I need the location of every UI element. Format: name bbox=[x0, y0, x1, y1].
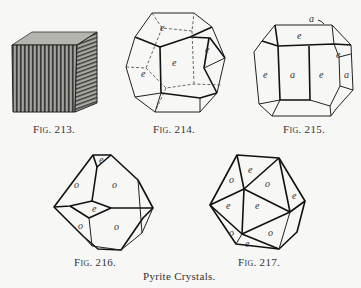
face-label: e bbox=[297, 30, 302, 41]
face-label: e bbox=[245, 238, 250, 249]
face-label: e bbox=[172, 57, 177, 68]
caption-number: 216. bbox=[96, 256, 116, 268]
caption-number: 213. bbox=[55, 123, 75, 135]
caption-fig-215: Fig. 215. bbox=[283, 123, 325, 135]
face-label: e bbox=[319, 69, 324, 80]
face-label: o bbox=[268, 227, 273, 238]
face-label: o bbox=[78, 220, 83, 231]
face-label: o bbox=[74, 179, 79, 190]
figure-213-striated-cube bbox=[12, 32, 97, 112]
caption-number: 214. bbox=[175, 123, 195, 135]
face-label: o bbox=[229, 174, 234, 185]
figure-217-icosahedral-combination: e o o e e e o o e bbox=[210, 155, 305, 249]
face-label: e bbox=[141, 68, 146, 79]
caption-prefix: Fig. bbox=[153, 123, 172, 135]
caption-number: 217. bbox=[260, 256, 280, 268]
face-label: o bbox=[265, 178, 270, 189]
figure-214-pyritohedron: e e e e bbox=[126, 13, 225, 112]
face-label: e bbox=[92, 203, 97, 214]
caption-fig-216: Fig. 216. bbox=[74, 256, 116, 268]
pyrite-crystals-plate: e e e e a e e a e a e e o bbox=[0, 0, 361, 288]
figure-215-cube-pyritohedron: a e e a e a e bbox=[254, 13, 353, 116]
caption-prefix: Fig. bbox=[74, 256, 93, 268]
face-label: e bbox=[255, 200, 260, 211]
face-label: e bbox=[226, 200, 231, 211]
plate-title: Pyrite Crystals. bbox=[143, 270, 216, 282]
face-label: a bbox=[290, 69, 295, 80]
face-label: e bbox=[160, 22, 165, 33]
face-label: e bbox=[248, 164, 253, 175]
caption-prefix: Fig. bbox=[283, 123, 302, 135]
face-label: e bbox=[263, 69, 268, 80]
face-label: e bbox=[205, 44, 210, 55]
caption-prefix: Fig. bbox=[238, 256, 257, 268]
face-label: e bbox=[336, 49, 341, 60]
caption-fig-217: Fig. 217. bbox=[238, 256, 280, 268]
caption-number: 215. bbox=[305, 123, 325, 135]
face-label: a bbox=[344, 69, 349, 80]
face-label: o bbox=[112, 179, 117, 190]
caption-fig-214: Fig. 214. bbox=[153, 123, 195, 135]
face-label: o bbox=[229, 227, 234, 238]
caption-fig-213: Fig. 213. bbox=[33, 123, 75, 135]
face-label: e bbox=[99, 154, 104, 165]
face-label: o bbox=[114, 221, 119, 232]
figure-216-octahedron-pyritohedron: e o o e o o bbox=[54, 154, 153, 250]
caption-prefix: Fig. bbox=[33, 123, 52, 135]
face-label: a bbox=[309, 13, 314, 24]
face-label: e bbox=[292, 190, 297, 201]
